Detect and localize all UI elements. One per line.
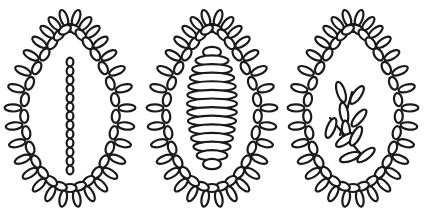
border-bead [172,60,185,75]
border-bead [393,92,403,106]
border-bead [246,140,258,155]
border-bead [392,125,402,139]
interior-bead [67,85,74,94]
border-bead [171,154,184,169]
interior-bead [67,121,74,130]
interior-bead [67,67,74,76]
border-bead [246,76,258,91]
border-petal [149,82,167,94]
border-petal [383,48,401,63]
border-bead [387,76,399,91]
border-petal [108,64,126,78]
border-bead [239,60,252,75]
border-petal [115,82,133,94]
border-bead [104,140,116,155]
artwork-canvas [0,0,424,223]
border-bead [97,60,110,75]
egg-leaf-sprigs-petal-ring [288,9,419,207]
border-petal [150,138,168,149]
interior-bead [67,112,74,121]
border-bead [166,140,178,155]
border-petal [400,121,418,130]
border-petal [288,104,305,111]
border-petal [242,48,260,63]
border-bead [303,110,312,124]
border-bead [21,125,31,139]
interior-bead [67,148,74,157]
interior-bead [67,103,74,112]
interior-bead [67,130,74,139]
border-bead [303,92,313,106]
border-bead [307,76,319,91]
border-bead [252,92,262,106]
border-bead [162,110,171,124]
border-petal [250,64,268,78]
border-bead [162,92,172,106]
border-petal [297,64,315,78]
border-petal [256,138,274,149]
border-bead [110,92,120,106]
border-petal [398,82,416,94]
interior-bead [67,58,74,67]
border-petal [5,104,22,111]
border-petal [147,121,165,130]
border-bead [304,125,314,139]
border-petal [164,48,182,63]
egg-motifs-illustration [0,0,424,223]
border-bead [20,92,30,106]
egg-leaf-sprigs [288,9,419,207]
border-petal [261,104,278,111]
border-petal [117,121,135,130]
border-bead [24,76,36,91]
border-petal [8,138,26,149]
border-petal [7,82,25,94]
border-bead [253,110,262,124]
interior-bead [67,166,74,175]
border-bead [20,110,29,124]
border-bead [230,47,244,62]
interior-bead [67,157,74,166]
border-petal [119,104,136,111]
border-bead [111,110,120,124]
border-bead [163,125,173,139]
border-petal [397,138,415,149]
egg-beaded-chain [5,9,136,207]
egg-beaded-chain-interior [67,58,74,175]
sprig-leaf [323,117,338,139]
coil-ring [203,159,221,169]
border-petal [147,104,164,111]
border-bead [109,125,119,139]
border-petal [290,82,308,94]
border-petal [100,48,118,63]
border-bead [30,60,43,75]
border-petal [114,138,132,149]
border-bead [313,60,326,75]
border-bead [307,140,319,155]
lower-sprig [323,117,376,165]
border-petal [402,104,419,111]
border-bead [387,140,399,155]
interior-bead [67,76,74,85]
border-bead [312,154,325,169]
sprig-leaf [334,81,348,103]
sprig-leaf [349,107,369,128]
border-petal [391,64,409,78]
border-bead [88,47,102,62]
border-bead [24,140,36,155]
border-petal [291,138,309,149]
egg-leaf-sprigs-interior [323,81,376,165]
border-bead [166,76,178,91]
border-petal [5,121,23,130]
border-bead [371,47,385,62]
border-petal [14,64,32,78]
border-petal [288,121,306,130]
border-bead [104,76,116,91]
egg-coiled-cocoon [147,9,278,207]
egg-coiled-cocoon-interior [187,47,237,169]
border-bead [29,154,42,169]
border-petal [305,48,323,63]
interior-bead [67,94,74,103]
egg-leaf-sprigs-bead-ring [303,23,403,192]
border-bead [380,60,393,75]
interior-bead [67,139,74,148]
